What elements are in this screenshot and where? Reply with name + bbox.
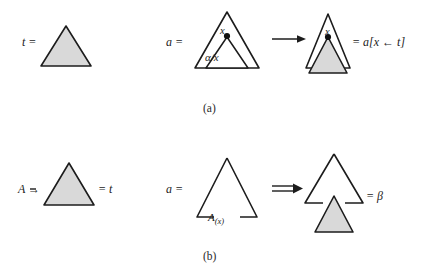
label-substitution-result: = a[x ← t] — [352, 36, 405, 48]
label-A-arrow: A → — [18, 183, 40, 195]
triangle-t-shaded — [41, 26, 91, 66]
label-A-foot-letter: A — [208, 211, 215, 223]
label-node-x-mid: x — [220, 26, 225, 37]
label-equals-beta: = β — [366, 190, 383, 202]
caption-panel-b: (b) — [203, 251, 216, 263]
label-t-equals: t = — [22, 36, 36, 48]
triangle-a-open-base — [197, 158, 257, 217]
caption-panel-a: (a) — [203, 103, 216, 115]
label-A-foot-subscript: (x) — [215, 216, 224, 226]
label-a-equals-bottom: a = — [166, 183, 183, 195]
label-node-x-right: x — [325, 27, 330, 38]
label-alpha-over-x: α/x — [205, 52, 219, 63]
triangle-beta-shaded — [315, 196, 353, 232]
triangle-rule-shaded — [44, 163, 94, 205]
label-a-equals-top: a = — [166, 36, 183, 48]
arrow-adjunction-icon — [272, 184, 303, 194]
arrow-substitution-icon — [272, 35, 306, 43]
label-equals-t: = t — [98, 183, 112, 195]
label-A-foot: A(x) — [208, 212, 224, 225]
